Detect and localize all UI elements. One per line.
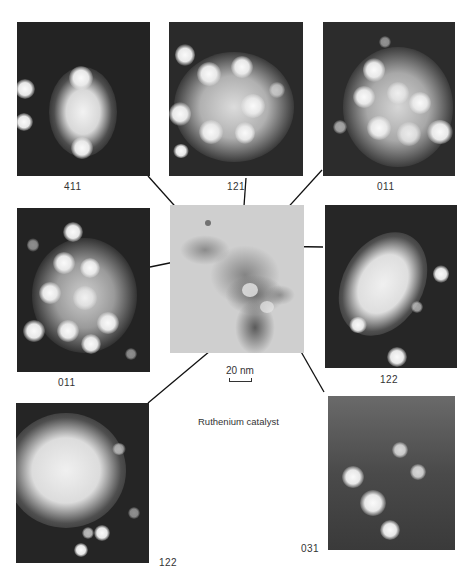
panel-label-011-top: 011 xyxy=(377,181,394,192)
diffraction-pattern-011-left xyxy=(17,208,150,372)
panel-label-122-right: 122 xyxy=(380,374,398,385)
panel-label-122-bottom: 122 xyxy=(159,557,177,568)
diffraction-pattern-411 xyxy=(17,22,150,176)
diffraction-pattern-121 xyxy=(169,22,303,176)
panel-label-121: 121 xyxy=(227,181,245,192)
panel-label-011-left: 011 xyxy=(58,377,75,388)
panel-label-031: 031 xyxy=(301,543,319,554)
diffraction-pattern-122-right xyxy=(325,205,457,368)
diffraction-pattern-122-bottom xyxy=(16,403,149,563)
tem-micrograph xyxy=(170,205,304,353)
diffraction-pattern-031 xyxy=(328,396,455,550)
diffraction-pattern-011-top xyxy=(323,22,455,176)
scale-bar xyxy=(229,378,252,382)
scale-bar-label: 20 nm xyxy=(226,365,254,376)
panel-label-411: 411 xyxy=(64,181,81,192)
figure-caption: Ruthenium catalyst xyxy=(198,416,279,427)
